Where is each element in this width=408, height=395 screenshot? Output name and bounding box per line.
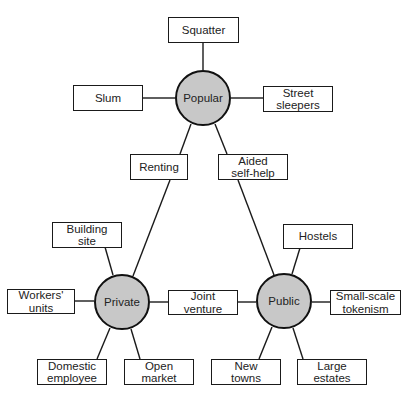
node-building-site: Building site [52,222,122,248]
node-open-market: Open market [124,359,194,385]
hub-private: Private [94,274,150,330]
node-workers-units: Workers' units [7,289,75,314]
node-workers-units-label: Workers' units [19,289,64,314]
node-domestic-employee-label: Domestic employee [47,360,97,385]
node-joint-venture-label: Joint venture [184,290,222,315]
node-small-scale-tokenism-label: Small-scale tokenism [336,290,395,315]
connector-lines [0,0,408,395]
node-new-towns-label: New towns [231,360,261,385]
node-domestic-employee: Domestic employee [37,359,107,385]
node-small-scale-tokenism: Small-scale tokenism [330,290,401,315]
node-squatter: Squatter [168,17,239,43]
node-slum: Slum [73,85,143,111]
hub-popular-label: Popular [183,92,223,104]
node-open-market-label: Open market [141,360,176,385]
node-slum-label: Slum [95,92,121,105]
node-aided-self-help-label: Aided self-help [231,155,274,180]
node-street-sleepers: Street sleepers [263,86,333,112]
node-aided-self-help: Aided self-help [218,154,288,180]
node-hostels-label: Hostels [299,230,337,243]
node-new-towns: New towns [211,359,281,385]
node-renting-label: Renting [139,161,179,174]
hub-public: Public [256,273,312,329]
node-large-estates-label: Large estates [313,360,350,385]
hub-private-label: Private [104,296,140,308]
node-building-site-label: Building site [67,223,108,248]
node-joint-venture: Joint venture [168,290,238,315]
hub-popular: Popular [175,70,231,126]
node-squatter-label: Squatter [182,24,225,37]
hub-public-label: Public [268,295,299,307]
node-large-estates: Large estates [297,359,367,385]
node-hostels: Hostels [283,224,353,249]
node-renting: Renting [130,154,188,180]
node-street-sleepers-label: Street sleepers [276,87,319,112]
